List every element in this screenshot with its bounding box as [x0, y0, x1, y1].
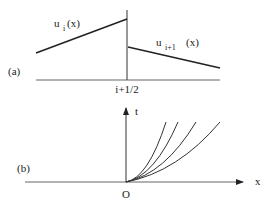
left-function-base: u	[54, 17, 60, 29]
left-function-label: u i (x)	[54, 17, 80, 33]
left-function-subscript: i	[63, 24, 66, 33]
panel-b: (b) O x t	[17, 105, 261, 200]
figure: (a) i+1/2 u i (x) u i+1 (x) (b) O x t	[0, 0, 273, 205]
left-function-arg: (x)	[67, 17, 80, 30]
left-state-segment	[36, 19, 127, 53]
right-function-label: u i+1 (x)	[156, 36, 199, 52]
t-axis-label: t	[135, 105, 138, 117]
interface-label: i+1/2	[115, 83, 138, 95]
right-function-subscript: i+1	[165, 43, 176, 52]
x-axis-label: x	[255, 175, 261, 187]
characteristic-curve	[126, 122, 166, 182]
right-function-base: u	[156, 36, 162, 48]
right-function-arg: (x)	[186, 36, 199, 49]
characteristic-curve	[126, 122, 196, 182]
characteristic-curves	[126, 122, 220, 182]
characteristic-curve	[126, 122, 178, 182]
origin-label: O	[122, 188, 130, 200]
panel-a: (a) i+1/2 u i (x) u i+1 (x)	[8, 10, 220, 95]
panel-a-label: (a)	[8, 65, 21, 78]
panel-b-label: (b)	[17, 162, 30, 175]
